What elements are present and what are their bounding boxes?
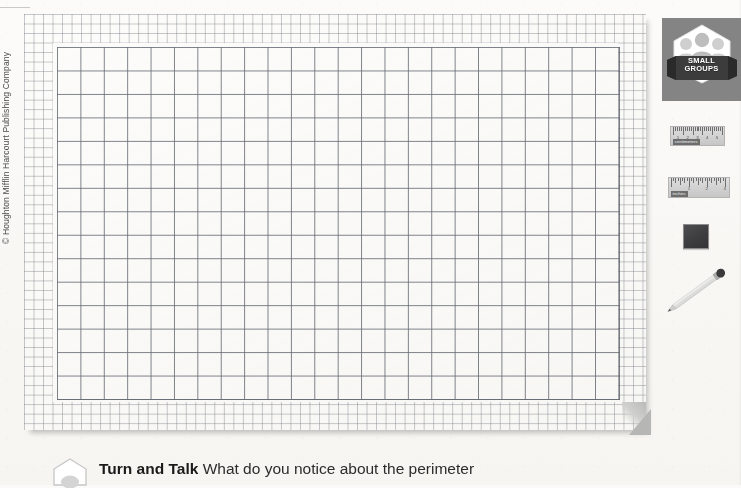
centimeter-ruler[interactable]: 1 2 3 4 5 centimeters [670,126,725,146]
copyright-notice: © Houghton Mifflin Harcourt Publishing C… [1,52,11,244]
pencil-icon[interactable] [663,262,735,318]
inch-ruler-label: inches [671,191,688,197]
manipulatives-rail: SMALL GROUPS [655,0,741,440]
inch-ruler[interactable]: 1 2 3 inches [668,177,730,198]
speech-bubble-icon [52,458,88,488]
turn-and-talk-prompt: What do you notice about the perimeter [203,460,474,477]
small-groups-label: SMALL GROUPS [670,57,734,74]
turn-and-talk-text: Turn and Talk What do you notice about t… [99,458,644,479]
turn-and-talk-label: Turn and Talk [99,460,198,477]
scan-artifact-line [0,7,30,8]
main-grid[interactable] [57,47,620,400]
small-groups-badge: SMALL GROUPS [670,23,734,85]
grid-paper-sheet[interactable] [24,14,646,430]
turn-and-talk-callout: Turn and Talk What do you notice about t… [52,452,652,485]
color-tile[interactable] [683,224,709,249]
centimeter-ruler-label: centimeters [673,139,700,145]
small-groups-line2: GROUPS [670,65,734,73]
small-groups-banner[interactable]: SMALL GROUPS [662,18,741,101]
